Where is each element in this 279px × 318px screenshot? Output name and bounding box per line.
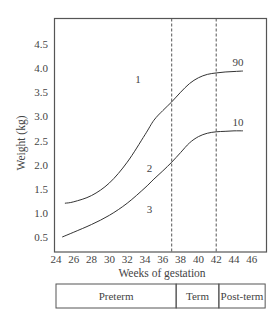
x-tick-label: 38 <box>175 253 187 265</box>
y-tick-label: 3.5 <box>34 86 48 98</box>
gestation-period-table: PretermTermPost-term <box>56 284 265 308</box>
region-label-2: 2 <box>147 162 153 174</box>
y-tick-label: 4.0 <box>34 62 48 74</box>
y-tick-label: 0.5 <box>34 231 48 243</box>
y-tick-label: 2.0 <box>34 159 48 171</box>
x-tick-label: 26 <box>68 253 80 265</box>
period-label-preterm: Preterm <box>99 290 134 302</box>
x-tick-label: 36 <box>157 253 169 265</box>
y-tick-labels: 0.51.01.52.02.53.03.54.04.5 <box>34 38 48 243</box>
region-annotations: 123 <box>135 73 153 215</box>
x-tick-label: 30 <box>104 253 116 265</box>
x-tick-label: 24 <box>51 253 63 265</box>
y-tick-label: 2.5 <box>34 135 48 147</box>
x-tick-label: 44 <box>229 253 241 265</box>
y-tick-label: 1.5 <box>34 183 48 195</box>
y-tick-label: 4.5 <box>34 38 48 50</box>
x-tick-label: 34 <box>140 253 152 265</box>
period-label-post-term: Post-term <box>221 290 264 302</box>
x-tick-label: 42 <box>211 253 222 265</box>
y-tick-label: 1.0 <box>34 207 48 219</box>
plot-frame <box>55 19 267 253</box>
x-axis-title: Weeks of gestation <box>118 267 205 280</box>
growth-chart: 0.51.01.52.02.53.03.54.04.5 242628303234… <box>0 0 279 318</box>
reference-lines <box>172 19 217 253</box>
x-tick-label: 32 <box>122 253 133 265</box>
series-label-10: 10 <box>232 116 244 128</box>
y-axis-title: Weight (kg) <box>15 115 28 170</box>
region-label-1: 1 <box>135 73 141 85</box>
x-tick-label: 28 <box>86 253 98 265</box>
x-tick-label: 46 <box>246 253 258 265</box>
series-labels: 9010 <box>232 56 244 128</box>
period-label-term: Term <box>186 290 209 302</box>
x-tick-labels: 242628303234363840424446 <box>51 253 258 265</box>
region-label-3: 3 <box>147 203 153 215</box>
x-tick-label: 40 <box>193 253 205 265</box>
y-tick-label: 3.0 <box>34 110 48 122</box>
series-label-90: 90 <box>232 56 244 68</box>
